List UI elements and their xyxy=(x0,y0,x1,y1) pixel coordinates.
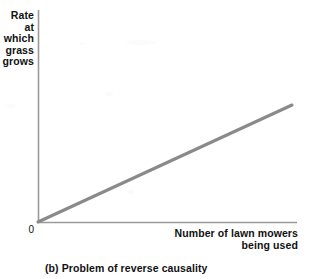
figure-reverse-causality: Rate at which grass grows 0 Number of la… xyxy=(0,0,321,279)
trend-line xyxy=(38,105,292,222)
y-axis-label: Rate at which grass grows xyxy=(0,10,34,68)
x-axis-label: Number of lawn mowers being used xyxy=(168,228,298,251)
figure-caption: (b) Problem of reverse causality xyxy=(45,262,208,274)
origin-tick-label: 0 xyxy=(24,224,34,235)
